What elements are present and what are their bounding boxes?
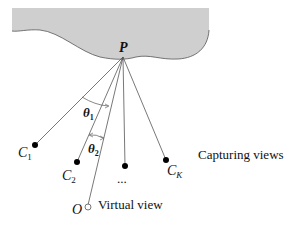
diagram-canvas: P θ1 θ2 C1 C2 ... CK O Capturing views V… — [0, 0, 296, 227]
capture-label-ellipsis: ... — [117, 171, 127, 186]
virtual-label-o: O — [72, 202, 82, 217]
capture-label-c1: C1 — [18, 145, 32, 162]
angle-label-theta2: θ2 — [88, 141, 99, 158]
rays — [35, 57, 166, 205]
caption-capturing-views: Capturing views — [198, 147, 284, 162]
capture-label-ck: CK — [167, 163, 183, 180]
caption-virtual-view: Virtual view — [98, 197, 163, 212]
point-label-p: P — [119, 40, 128, 55]
capture-dot-c2 — [74, 159, 80, 165]
angle-label-theta1: θ1 — [83, 105, 94, 122]
capture-dot-c1 — [32, 142, 38, 148]
surface-shape — [12, 8, 209, 59]
capture-label-c2: C2 — [62, 168, 76, 185]
capture-dot-ellipsis — [122, 163, 128, 169]
virtual-dot-o — [85, 204, 91, 210]
